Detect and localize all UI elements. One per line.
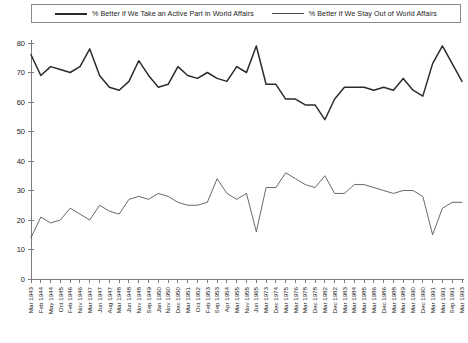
- x-axis-tick-label: Dec 1974: [272, 286, 279, 313]
- x-axis-tick-label: Mar 1991: [429, 286, 436, 313]
- x-axis-tick-label: Mar 1982: [321, 286, 328, 313]
- x-axis-tick-label: Mar 1973: [262, 286, 269, 313]
- data-series-group: [31, 46, 462, 238]
- y-axis-tick-label: 20: [17, 216, 25, 225]
- x-axis-tick-label: Nov 1955: [243, 286, 250, 313]
- x-axis-tick-label: Jan 1950: [155, 286, 162, 312]
- x-axis-tick-label: Mar 1993: [458, 286, 465, 313]
- x-axis-tick-label: Mar 1978: [301, 286, 308, 313]
- x-axis-tick-label: Jun 1965: [252, 286, 259, 312]
- x-axis-tick-label: Sep 1991: [448, 286, 455, 313]
- x-axis-tick-label: Mar 1991: [439, 286, 446, 313]
- x-axis-tick-label: Dec 1978: [311, 286, 318, 313]
- y-axis-tick-label: 0: [21, 275, 25, 284]
- plot-area: 01020304050607080 Mar 1943Feb 1944May 19…: [0, 30, 468, 343]
- x-axis-tick-label: Mar 1948: [115, 286, 122, 313]
- x-axis-labels: Mar 1943Feb 1944May 1944Oct 1945Feb 1946…: [27, 286, 465, 314]
- legend-label-stay-out: % Better if We Stay Out of World Affairs: [309, 9, 437, 18]
- x-axis-tick-label: Apr 1954: [223, 286, 230, 312]
- x-axis-tick-label: Feb 1953: [204, 286, 211, 313]
- legend-line-swatch-active-icon: [55, 13, 87, 15]
- x-axis-tick-label: Mar 1983: [341, 286, 348, 313]
- x-axis-tick-label: Mar 1986: [370, 286, 377, 313]
- x-axis-tick-label: Mar 1976: [292, 286, 299, 313]
- x-axis-tick-label: May 1944: [47, 286, 54, 314]
- x-axis-tick-label: Oct 1945: [57, 286, 64, 312]
- legend-label-active-part: % Better if We Take an Active Part in Wo…: [92, 9, 254, 18]
- x-axis-tick-label: Mar 1990: [409, 286, 416, 313]
- x-axis-tick-label: Mar 1955: [233, 286, 240, 313]
- chart-screenshot: % Better if We Take an Active Part in Wo…: [0, 0, 468, 343]
- x-axis-tick-label: Mar 1951: [184, 286, 191, 313]
- x-axis-tick-label: Mar 1943: [27, 286, 34, 313]
- line-chart: 01020304050607080 Mar 1943Feb 1944May 19…: [0, 30, 468, 343]
- x-axis-tick-label: Dec 1990: [419, 286, 426, 313]
- y-axis-tick-label: 80: [17, 39, 25, 48]
- y-axis-tick-label: 60: [17, 98, 25, 107]
- chart-legend: % Better if We Take an Active Part in Wo…: [31, 4, 461, 23]
- y-axis-tick-label: 50: [17, 127, 25, 136]
- x-axis-tick-label: Jun 1948: [125, 286, 132, 312]
- legend-entry-active-part: % Better if We Take an Active Part in Wo…: [55, 9, 254, 18]
- y-axis-tick-label: 10: [17, 245, 25, 254]
- x-axis-tick-label: Oct 1952: [194, 286, 201, 312]
- x-axis-tick-label: Sep 1953: [213, 286, 220, 313]
- x-axis-tick-label: Nov 1946: [76, 286, 83, 313]
- y-axis: 01020304050607080: [17, 39, 34, 284]
- x-axis-tick-label: Feb 1944: [37, 286, 44, 313]
- x-axis-tick-label: Jun 1947: [96, 286, 103, 312]
- x-axis-tick-label: Dec 1982: [331, 286, 338, 313]
- x-axis-tick-label: Feb 1946: [66, 286, 73, 313]
- x-axis-tick-label: Mar 1984: [350, 286, 357, 313]
- legend-line-swatch-stayout-icon: [272, 13, 304, 14]
- x-axis-tick-label: Nov 1948: [135, 286, 142, 313]
- y-axis-tick-label: 30: [17, 186, 25, 195]
- x-axis-tick-label: Dec 1986: [380, 286, 387, 313]
- series-line-active-part: [31, 46, 462, 120]
- series-line-stay-out: [31, 173, 462, 238]
- x-axis-tick-label: Mar 1975: [282, 286, 289, 313]
- x-axis-tick-label: Mar 1989: [399, 286, 406, 313]
- y-axis-tick-label: 70: [17, 68, 25, 77]
- x-axis: [31, 279, 464, 283]
- y-axis-tick-label: 40: [17, 157, 25, 166]
- x-axis-tick-label: Mar 1985: [360, 286, 367, 313]
- x-axis-tick-label: Aug 1947: [106, 286, 113, 313]
- x-axis-tick-label: Dec 1950: [174, 286, 181, 313]
- x-axis-tick-label: Nov 1950: [164, 286, 171, 313]
- x-axis-tick-label: Mar 1947: [86, 286, 93, 313]
- legend-entry-stay-out: % Better if We Stay Out of World Affairs: [272, 9, 437, 18]
- x-axis-tick-label: Mar 1988: [390, 286, 397, 313]
- x-axis-tick-label: Sep 1949: [145, 286, 152, 313]
